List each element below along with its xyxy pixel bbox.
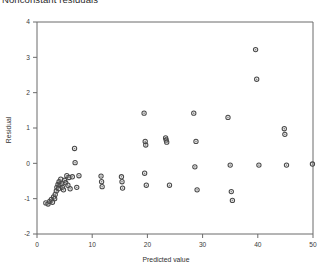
data-point-core: [78, 175, 80, 177]
data-point: [226, 115, 230, 119]
y-tick-label: 3: [26, 54, 30, 61]
data-point: [68, 187, 72, 191]
chart-title: Nonconstant residuals: [2, 0, 98, 5]
data-point-core: [144, 141, 146, 143]
data-point: [144, 183, 148, 187]
data-point-core: [63, 189, 65, 191]
data-point: [193, 165, 197, 169]
data-point-core: [60, 178, 62, 180]
data-point-core: [101, 181, 103, 183]
y-axis-title: Residual: [5, 116, 12, 143]
data-point: [283, 132, 287, 136]
data-point-core: [61, 183, 63, 185]
data-point: [120, 186, 124, 190]
data-point-core: [144, 172, 146, 174]
data-point: [72, 146, 76, 150]
data-point-core: [194, 166, 196, 168]
data-point: [194, 139, 198, 143]
data-point: [255, 77, 259, 81]
data-point-core: [229, 164, 231, 166]
x-tick-label: 0: [35, 241, 39, 248]
data-point-core: [256, 78, 258, 80]
y-tick-label: -2: [24, 230, 30, 237]
data-point-core: [76, 187, 78, 189]
x-tick-label: 30: [199, 241, 207, 248]
plot-frame: [37, 22, 313, 234]
plot-canvas: 01020304050 -2-101234 Predicted value Re…: [0, 0, 330, 270]
data-point-core: [74, 162, 76, 164]
frame-border: [37, 22, 313, 234]
data-point-core: [143, 112, 145, 114]
data-point-core: [145, 184, 147, 186]
data-point: [195, 188, 199, 192]
data-point-core: [255, 49, 257, 51]
data-point-core: [193, 112, 195, 114]
y-tick-label: 1: [26, 124, 30, 131]
data-point: [310, 162, 314, 166]
data-point: [77, 174, 81, 178]
data-point-core: [121, 176, 123, 178]
data-point-core: [69, 188, 71, 190]
data-point: [142, 171, 146, 175]
data-point: [284, 163, 288, 167]
data-point: [120, 180, 124, 184]
data-point-core: [67, 184, 69, 186]
data-point-core: [122, 187, 124, 189]
data-point: [228, 163, 232, 167]
data-point-core: [312, 163, 314, 165]
data-point-core: [169, 184, 171, 186]
data-point-core: [286, 164, 288, 166]
data-point: [192, 111, 196, 115]
data-point-core: [68, 177, 70, 179]
data-point: [282, 127, 286, 131]
data-point: [229, 189, 233, 193]
data-point-core: [54, 198, 56, 200]
x-axis-title: Predicted value: [143, 256, 190, 263]
data-point-core: [121, 181, 123, 183]
data-point-core: [232, 200, 234, 202]
data-point: [142, 111, 146, 115]
data-point-core: [71, 176, 73, 178]
x-tick-label: 50: [309, 241, 317, 248]
data-point: [73, 160, 77, 164]
y-tick-label: -1: [24, 195, 30, 202]
data-point-core: [52, 201, 54, 203]
data-point-core: [258, 164, 260, 166]
data-point-core: [284, 134, 286, 136]
x-tick-label: 40: [254, 241, 262, 248]
data-point-core: [283, 128, 285, 130]
data-point-core: [166, 141, 168, 143]
data-point: [230, 198, 234, 202]
data-point: [167, 183, 171, 187]
data-point-core: [230, 191, 232, 193]
scatter-plot-figure: Nonconstant residuals 01020304050 -2-101…: [0, 0, 330, 270]
data-point-core: [101, 186, 103, 188]
data-point: [75, 185, 79, 189]
data-point-core: [100, 175, 102, 177]
data-point-core: [145, 144, 147, 146]
data-point-core: [54, 194, 56, 196]
y-axis: -2-101234: [24, 18, 37, 237]
data-point-core: [58, 188, 60, 190]
data-point: [99, 174, 103, 178]
data-point: [253, 47, 257, 51]
data-point: [119, 175, 123, 179]
data-point: [100, 185, 104, 189]
data-point: [257, 163, 261, 167]
data-point-core: [227, 117, 229, 119]
y-tick-label: 2: [26, 89, 30, 96]
data-points-layer: [44, 47, 315, 206]
y-tick-label: 4: [26, 18, 30, 25]
x-tick-label: 10: [89, 241, 97, 248]
data-point-core: [196, 189, 198, 191]
x-tick-label: 20: [144, 241, 152, 248]
data-point-core: [74, 148, 76, 150]
y-tick-label: 0: [26, 160, 30, 167]
data-point-core: [195, 141, 197, 143]
data-point: [99, 180, 103, 184]
x-axis: 01020304050: [35, 234, 317, 248]
